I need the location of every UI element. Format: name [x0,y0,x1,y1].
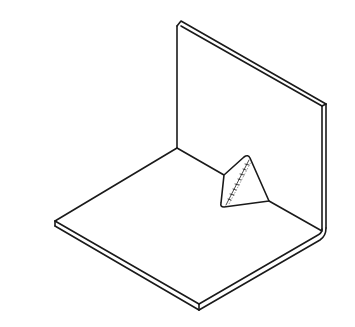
angle-bracket-drawing [0,0,355,327]
diagram-canvas [0,0,355,327]
